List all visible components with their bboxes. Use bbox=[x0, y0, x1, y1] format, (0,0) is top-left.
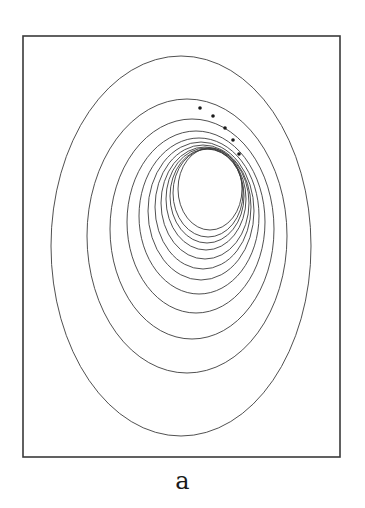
figure-caption: a bbox=[0, 466, 365, 496]
trajectory-dot-4 bbox=[237, 152, 241, 156]
contour-diagram bbox=[0, 0, 365, 508]
contour-ellipse-0 bbox=[51, 56, 311, 436]
contour-ellipse-2 bbox=[110, 119, 274, 339]
contour-ellipse-3 bbox=[127, 131, 265, 313]
contour-ellipse-9 bbox=[170, 149, 244, 243]
contour-ellipse-11 bbox=[178, 148, 242, 230]
contour-ellipse-5 bbox=[148, 142, 254, 280]
nested-ellipse-contours bbox=[51, 56, 311, 436]
contour-ellipse-10 bbox=[173, 149, 243, 237]
trajectory-dot-3 bbox=[231, 138, 235, 142]
trajectory-dot-2 bbox=[223, 126, 227, 130]
trajectory-dot-1 bbox=[211, 114, 215, 118]
trajectory-dot-0 bbox=[198, 106, 202, 110]
